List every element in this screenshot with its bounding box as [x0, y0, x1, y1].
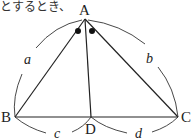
arc-d-left	[91, 117, 127, 133]
arc-a-bottom	[14, 74, 22, 117]
arc-a-top	[36, 20, 82, 48]
side-ab	[15, 19, 85, 117]
arc-d-right	[152, 117, 178, 132]
arc-b-bottom	[158, 67, 178, 117]
point-label-d: D	[85, 121, 96, 137]
length-label-b: b	[146, 51, 153, 66]
length-label-c: c	[54, 126, 61, 138]
angle-mark-dot-left	[75, 28, 81, 34]
angle-mark-dot-right	[89, 28, 95, 34]
arc-c-left	[15, 117, 46, 133]
triangle-bisector-diagram: A B C D a b c d	[0, 0, 195, 138]
length-label-d: d	[135, 126, 143, 138]
side-ac	[85, 19, 178, 117]
length-label-a: a	[24, 52, 31, 67]
point-label-a: A	[79, 2, 90, 18]
point-label-b: B	[1, 109, 11, 125]
bisector-ad	[85, 19, 91, 117]
point-label-c: C	[181, 109, 191, 125]
